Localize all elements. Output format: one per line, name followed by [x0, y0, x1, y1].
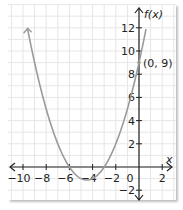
svg-text:−10: −10 — [7, 172, 30, 185]
svg-text:12: 12 — [121, 22, 135, 35]
svg-text:−8: −8 — [34, 172, 50, 185]
svg-text:8: 8 — [128, 68, 135, 81]
svg-text:10: 10 — [121, 45, 135, 58]
svg-text:2: 2 — [159, 172, 166, 185]
point-marker — [137, 61, 141, 65]
x-axis-label: x — [165, 153, 173, 166]
svg-text:4: 4 — [128, 115, 135, 128]
point-label: (0, 9) — [143, 57, 173, 70]
svg-text:−2: −2 — [104, 172, 120, 185]
svg-text:0: 0 — [127, 172, 134, 185]
svg-text:2: 2 — [128, 138, 135, 151]
svg-text:−2: −2 — [119, 184, 135, 197]
svg-text:−6: −6 — [57, 172, 73, 185]
y-axis-label: f(x) — [144, 8, 163, 21]
function-graph: −10−8−6−4−202−224681012 (0, 9) x f(x) — [0, 0, 183, 210]
